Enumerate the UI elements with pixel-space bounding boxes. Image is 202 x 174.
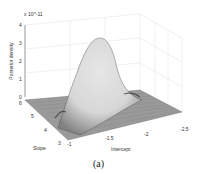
- x-axis-label: Intercept: [111, 146, 130, 152]
- z-tick-3: 3: [19, 40, 22, 46]
- x-tick-1-5: -1.5: [105, 135, 114, 141]
- y-tick-4: 4: [44, 127, 47, 133]
- y-tick-5: 5: [31, 113, 34, 119]
- z-exponent-label: x 10^-11: [24, 11, 43, 17]
- y-tick-3: 3: [58, 140, 61, 146]
- z-axis-label: Posterior density: [8, 42, 14, 79]
- z-tick-1: 1: [19, 76, 22, 82]
- y-tick-6: 6: [19, 100, 22, 106]
- z-tick-4: 4: [19, 22, 22, 28]
- x-tick-2: -2: [144, 131, 148, 137]
- surface-plot: [0, 0, 202, 174]
- x-tick-2-5: -2.5: [180, 126, 189, 132]
- figure-caption: (a): [93, 158, 104, 169]
- z-tick-2: 2: [19, 58, 22, 64]
- y-axis-label: Slope: [33, 145, 46, 151]
- x-tick-1: -1: [67, 141, 71, 147]
